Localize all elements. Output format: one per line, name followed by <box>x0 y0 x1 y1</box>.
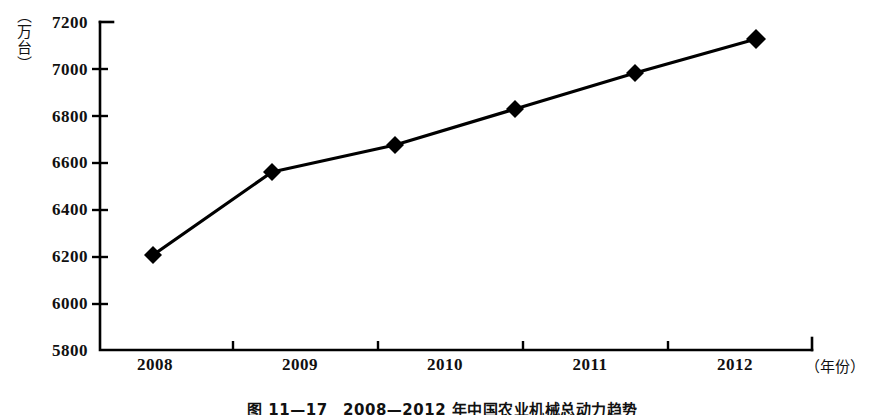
data-point-marker <box>626 64 644 82</box>
chart-plot-area <box>0 0 885 415</box>
data-point-marker <box>746 29 766 49</box>
chart-figure: （万台） 7200 7000 6800 6600 6400 6200 6000 … <box>0 0 885 415</box>
data-point-marker <box>506 100 524 118</box>
figure-caption: 图 11—17 2008—2012 年中国农业机械总动力趋势 <box>0 398 885 415</box>
data-point-markers <box>144 29 766 264</box>
axis-lines <box>100 22 812 350</box>
data-point-marker <box>386 136 404 154</box>
data-series-line <box>153 39 756 255</box>
x-axis-ticks <box>233 341 668 350</box>
